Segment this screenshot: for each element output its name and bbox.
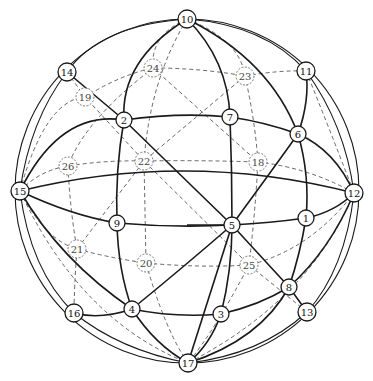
vertex-label: 11 [300, 66, 313, 77]
vertex-label: 13 [301, 307, 314, 318]
vertex-node: 8 [281, 279, 297, 295]
sphere-diagram: 1234567891011121314151617181920212223242… [0, 0, 373, 381]
vertex-label: 1 [303, 213, 309, 224]
vertex-node: 13 [298, 303, 316, 321]
hidden-edge [67, 72, 307, 312]
vertex-label: 6 [295, 129, 301, 140]
vertex-node: 15 [11, 182, 29, 200]
vertex-label: 14 [61, 67, 74, 78]
vertex-node: 14 [58, 63, 76, 81]
vertex-label: 20 [140, 258, 153, 269]
visible-edge [67, 72, 307, 312]
vertex-label: 21 [71, 244, 84, 255]
vertex-label: 9 [114, 218, 120, 229]
hidden-vertex-node: 25 [240, 256, 258, 274]
vertex-label: 23 [239, 71, 252, 82]
vertex-label: 16 [68, 308, 81, 319]
vertex-label: 19 [79, 92, 92, 103]
hidden-vertex-node: 18 [249, 153, 267, 171]
hidden-edge [68, 19, 187, 313]
vertex-label: 8 [286, 282, 292, 293]
hidden-vertex-node: 21 [68, 240, 86, 258]
vertex-node: 5 [224, 217, 240, 233]
sphere-graph-svg: 1234567891011121314151617181920212223242… [0, 0, 373, 381]
vertex-label: 18 [252, 157, 265, 168]
hidden-vertex-node: 20 [137, 254, 155, 272]
vertex-labels: 1234567891011121314151617181920212223242… [11, 10, 363, 372]
vertex-label: 25 [243, 260, 256, 271]
vertex-label: 3 [218, 309, 224, 320]
vertex-node: 2 [116, 112, 132, 128]
vertex-node: 7 [222, 109, 238, 125]
vertex-label: 2 [121, 115, 127, 126]
hidden-vertex-node: 22 [135, 152, 153, 170]
hidden-vertex-node: 26 [59, 157, 77, 175]
vertex-node: 6 [290, 126, 306, 142]
vertex-node: 12 [345, 184, 363, 202]
outline-arc [187, 19, 354, 193]
vertex-node: 3 [213, 306, 229, 322]
outline-arc [188, 193, 354, 363]
vertex-label: 15 [14, 186, 27, 197]
vertex-label: 5 [229, 220, 235, 231]
vertex-node: 17 [179, 354, 197, 372]
vertex-label: 26 [62, 161, 75, 172]
hidden-vertex-node: 19 [76, 88, 94, 106]
vertex-node: 16 [65, 304, 83, 322]
vertex-label: 17 [182, 358, 195, 369]
vertex-label: 22 [138, 156, 151, 167]
vertex-label: 7 [227, 112, 233, 123]
outline-arc [20, 191, 188, 363]
vertex-node: 11 [297, 62, 315, 80]
vertex-label: 24 [147, 63, 160, 74]
vertex-node: 9 [109, 215, 125, 231]
hidden-vertex-node: 24 [144, 59, 162, 77]
hidden-vertex-node: 23 [236, 67, 254, 85]
vertex-node: 4 [124, 301, 140, 317]
vertex-label: 12 [348, 188, 361, 199]
vertex-label: 4 [129, 304, 135, 315]
outline-arc [20, 19, 187, 191]
vertex-label: 10 [181, 14, 194, 25]
vertex-node: 10 [178, 10, 196, 28]
hidden-edge [20, 191, 188, 363]
vertex-node: 1 [298, 210, 314, 226]
